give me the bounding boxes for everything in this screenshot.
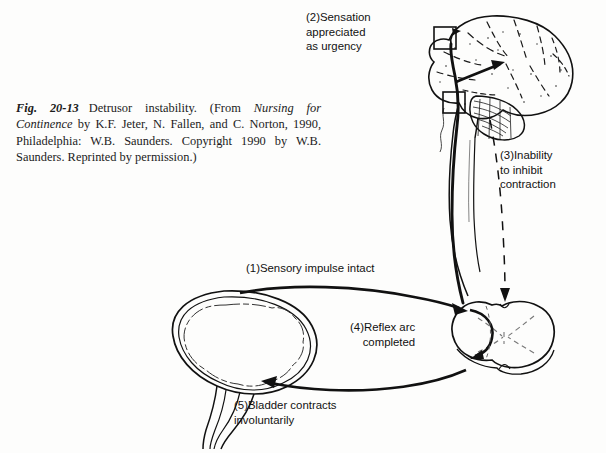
cortex-arrowhead xyxy=(491,60,505,70)
spinal-cord xyxy=(440,108,480,296)
figure-page: Fig. 20-13Detrusor instability. (From Nu… xyxy=(0,0,606,453)
brain-lateral-view xyxy=(429,16,573,119)
annotation-step-4: (4)Reflex arc completed xyxy=(350,320,415,349)
reflex-arc-arrowhead xyxy=(470,350,484,359)
detrusor-instability-illustration xyxy=(0,0,606,453)
figure-caption: Fig. 20-13Detrusor instability. (From Nu… xyxy=(16,100,321,166)
bladder-to-spinal-cord-afferent-arrow xyxy=(240,287,468,315)
annotation-step-3: (3)Inability to inhibit contraction xyxy=(500,148,556,192)
figure-title: Detrusor instability. xyxy=(89,101,197,115)
source-prefix: (From xyxy=(210,101,254,115)
cerebellar-folia xyxy=(473,98,511,140)
spinal-cord-cross-section xyxy=(452,302,554,375)
spinal-cord-arrowhead xyxy=(500,288,510,302)
figure-number: Fig. 20-13 xyxy=(16,101,79,115)
annotation-step-2: (2)Sensation appreciated as urgency xyxy=(306,10,371,54)
gray-matter-butterfly xyxy=(478,316,534,353)
annotation-step-5: (5)Bladder contracts involuntarily xyxy=(234,398,337,427)
spinal-cord-to-bladder-efferent-arrow xyxy=(261,370,466,390)
annotation-step-1: (1)Sensory impulse intact xyxy=(246,261,375,276)
